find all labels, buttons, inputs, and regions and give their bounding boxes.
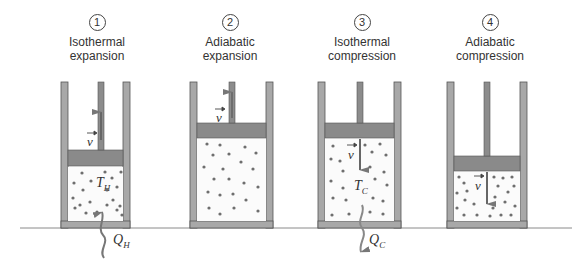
heat-out-label: QC <box>369 232 385 250</box>
velocity-label-1: v <box>87 134 93 150</box>
cylinder-3 <box>318 82 401 252</box>
piston-rod-4 <box>484 82 490 156</box>
piston-2 <box>197 123 266 138</box>
cylinder-2 <box>190 82 273 228</box>
cylinder-4 <box>447 82 527 228</box>
velocity-label-2: v <box>216 110 222 126</box>
temperature-hot-label: TH <box>96 175 110 193</box>
piston-rod-3 <box>357 82 363 123</box>
velocity-label-4: v <box>475 178 481 194</box>
carnot-cycle-diagram: 1 Isothermal expansion 2 Adiabatic expan… <box>0 0 580 271</box>
temperature-cold-label: TC <box>354 178 368 196</box>
piston-4 <box>454 156 520 171</box>
piston-3 <box>325 123 394 138</box>
heat-in-label: QH <box>113 232 130 250</box>
piston-1 <box>68 150 123 166</box>
velocity-vector-marks <box>87 107 484 178</box>
velocity-label-3: v <box>348 147 354 163</box>
